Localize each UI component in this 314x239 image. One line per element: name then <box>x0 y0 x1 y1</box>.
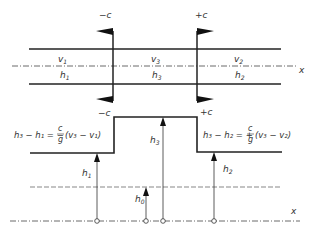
v3-label: v3 <box>151 54 160 65</box>
h2-height-label: h2 <box>223 164 233 175</box>
surge-wave-diagram: −c +c x v1 h1 v3 h3 v2 h2 −c +c x <box>0 0 314 239</box>
h0-arrowhead-icon <box>143 187 149 196</box>
channel-plan: −c +c x v1 h1 v3 h3 v2 h2 <box>12 10 305 103</box>
h3-base-circle-icon <box>161 219 166 224</box>
top-x-axis-label: x <box>298 65 305 75</box>
left-eq-rhs: (v₃ − v₁) <box>65 130 101 140</box>
left-eq-lhs: h₃ − h₁ = − <box>14 130 64 140</box>
right-eq-numerator: c <box>248 124 253 133</box>
h2-base-circle-icon <box>212 219 217 224</box>
right-lower-arrow-icon <box>197 96 214 103</box>
right-eq-lhs: h₃ − h₂ = + <box>203 130 253 140</box>
bottom-x-axis-label: x <box>290 206 297 216</box>
right-eq-rhs: (v₃ − v₂) <box>255 130 291 140</box>
right-equation: h₃ − h₂ = + c g (v₃ − v₂) <box>203 124 291 144</box>
h3-arrowhead-icon <box>160 117 166 126</box>
h3-arrow <box>160 117 166 223</box>
h1-base-circle-icon <box>95 219 100 224</box>
left-lower-arrow-icon <box>96 96 113 103</box>
h2-label: h2 <box>235 70 245 81</box>
h2-arrowhead-icon <box>211 152 217 161</box>
h1-arrowhead-icon <box>94 153 100 162</box>
h1-height-label: h1 <box>82 168 92 179</box>
left-eq-numerator: c <box>58 124 63 133</box>
h2-arrow <box>211 152 217 223</box>
h0-base-circle-icon <box>144 219 149 224</box>
h1-arrow <box>94 153 100 223</box>
h1-label: h1 <box>60 70 70 81</box>
left-eq-denominator: g <box>58 135 63 144</box>
top-left-wave-label: −c <box>99 10 112 20</box>
v2-label: v2 <box>234 54 243 65</box>
h0-arrow <box>143 187 149 223</box>
h3-height-label: h3 <box>150 135 160 146</box>
bottom-right-wave-label: +c <box>200 107 213 117</box>
left-equation: h₃ − h₁ = − c g (v₃ − v₁) <box>14 124 101 144</box>
left-upper-arrow-icon <box>96 28 113 35</box>
right-upper-arrow-icon <box>197 28 214 35</box>
h3-label: h3 <box>152 70 162 81</box>
bottom-left-wave-label: −c <box>98 108 111 118</box>
v1-label: v1 <box>58 54 67 65</box>
top-right-wave-label: +c <box>195 10 208 20</box>
water-profile: −c +c x h1 h0 h3 h2 h₃ <box>10 107 300 223</box>
right-eq-denominator: g <box>248 135 253 144</box>
